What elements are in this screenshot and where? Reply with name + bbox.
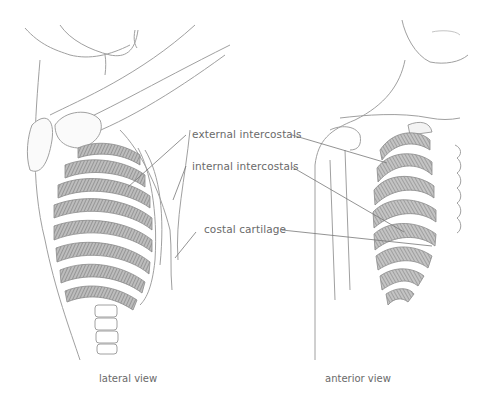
anatomy-illustration — [0, 0, 481, 399]
caption-lateral-view: lateral view — [99, 373, 157, 384]
lateral-ribcage — [54, 143, 152, 310]
label-external-intercostals: external intercostals — [192, 128, 301, 140]
anterior-ribcage — [373, 122, 436, 305]
label-internal-intercostals: internal intercostals — [192, 160, 299, 172]
label-costal-cartilage: costal cartilage — [204, 223, 286, 235]
caption-anterior-view: anterior view — [325, 373, 391, 384]
